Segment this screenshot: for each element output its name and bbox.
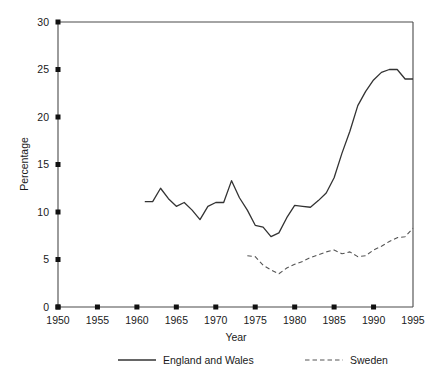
y-tick-mark bbox=[56, 257, 61, 262]
x-tick-label: 1955 bbox=[86, 314, 110, 326]
x-axis-ticks: 1950195519601965197019751980198519901995 bbox=[46, 305, 425, 327]
y-tick-label: 10 bbox=[37, 206, 49, 218]
x-tick-mark bbox=[174, 305, 179, 310]
x-tick-label: 1965 bbox=[165, 314, 189, 326]
plot-frame bbox=[58, 22, 413, 307]
y-tick-mark bbox=[56, 67, 61, 72]
x-tick-mark bbox=[56, 305, 61, 310]
line-chart: 051015202530 195019551960196519701975198… bbox=[0, 0, 443, 382]
x-tick-label: 1950 bbox=[46, 314, 70, 326]
y-tick-label: 20 bbox=[37, 111, 49, 123]
x-tick-mark bbox=[292, 305, 297, 310]
x-tick-mark bbox=[253, 305, 258, 310]
series-line-2 bbox=[247, 228, 413, 274]
x-tick-mark bbox=[213, 305, 218, 310]
x-tick-label: 1990 bbox=[362, 314, 386, 326]
legend-label-2: Sweden bbox=[350, 354, 388, 366]
y-tick-mark bbox=[56, 20, 61, 25]
x-tick-label: 1995 bbox=[401, 314, 425, 326]
y-axis-title: Percentage bbox=[18, 137, 30, 191]
y-axis-ticks: 051015202530 bbox=[37, 16, 60, 313]
chart-figure: 051015202530 195019551960196519701975198… bbox=[0, 0, 443, 382]
x-axis-title: Year bbox=[225, 331, 247, 343]
legend-label-1: England and Wales bbox=[163, 354, 254, 366]
x-tick-label: 1960 bbox=[125, 314, 149, 326]
x-tick-mark bbox=[332, 305, 337, 310]
y-tick-mark bbox=[56, 115, 61, 120]
x-tick-label: 1975 bbox=[244, 314, 268, 326]
chart-legend: England and WalesSweden bbox=[118, 354, 388, 366]
x-tick-label: 1985 bbox=[322, 314, 346, 326]
y-tick-label: 15 bbox=[37, 158, 49, 170]
y-tick-label: 25 bbox=[37, 63, 49, 75]
y-tick-label: 0 bbox=[43, 301, 49, 313]
x-tick-mark bbox=[134, 305, 139, 310]
y-tick-label: 5 bbox=[43, 253, 49, 265]
y-tick-label: 30 bbox=[37, 16, 49, 28]
x-tick-label: 1970 bbox=[204, 314, 228, 326]
x-tick-mark bbox=[371, 305, 376, 310]
series-line-1 bbox=[145, 70, 413, 237]
y-tick-mark bbox=[56, 162, 61, 167]
data-series-layer bbox=[145, 70, 413, 274]
x-tick-label: 1980 bbox=[283, 314, 307, 326]
y-tick-mark bbox=[56, 210, 61, 215]
x-tick-mark bbox=[95, 305, 100, 310]
